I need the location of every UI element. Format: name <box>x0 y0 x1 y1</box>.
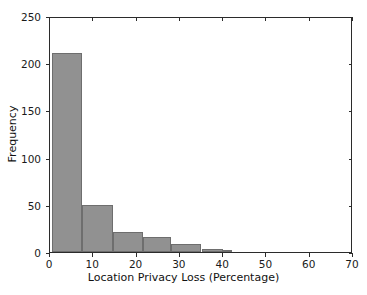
x-tick-label: 10 <box>72 258 112 270</box>
y-tick-mark <box>46 111 50 112</box>
y-tick-mark-right <box>349 64 353 65</box>
y-tick-label: 250 <box>1 11 41 23</box>
y-tick-label: 50 <box>1 200 41 212</box>
y-axis-label-text: Frequency <box>6 89 19 179</box>
y-tick-mark <box>46 159 50 160</box>
plot-area <box>49 17 352 253</box>
x-tick-mark-top <box>222 17 223 21</box>
x-tick-mark-top <box>179 17 180 21</box>
y-tick-mark <box>46 253 50 254</box>
histogram-bar <box>82 205 112 252</box>
y-tick-mark <box>46 206 50 207</box>
x-tick-mark-top <box>136 17 137 21</box>
x-tick-label: 30 <box>159 258 199 270</box>
y-tick-mark-right <box>349 253 353 254</box>
x-tick-label: 40 <box>202 258 242 270</box>
y-tick-mark-right <box>349 111 353 112</box>
y-tick-mark <box>46 64 50 65</box>
x-tick-mark <box>92 253 93 257</box>
x-tick-mark <box>136 253 137 257</box>
histogram-figure: 010203040506070050100150200250 Location … <box>0 0 367 295</box>
histogram-bar <box>52 53 82 252</box>
x-tick-mark <box>179 253 180 257</box>
x-tick-label: 70 <box>332 258 367 270</box>
x-tick-mark <box>265 253 266 257</box>
y-tick-label: 200 <box>1 58 41 70</box>
x-tick-mark <box>49 253 50 257</box>
histogram-bar <box>143 237 171 252</box>
x-tick-mark <box>309 253 310 257</box>
x-tick-label: 0 <box>29 258 69 270</box>
histogram-bar <box>171 244 201 252</box>
x-tick-mark-top <box>309 17 310 21</box>
x-tick-mark-top <box>49 17 50 21</box>
x-tick-mark-top <box>352 17 353 21</box>
y-tick-mark-right <box>349 206 353 207</box>
x-tick-label: 60 <box>289 258 329 270</box>
x-tick-label: 50 <box>245 258 285 270</box>
x-tick-mark <box>352 253 353 257</box>
histogram-bar <box>113 232 143 252</box>
x-tick-label: 20 <box>116 258 156 270</box>
histogram-bar <box>202 249 224 252</box>
x-tick-mark-top <box>92 17 93 21</box>
y-tick-mark-right <box>349 159 353 160</box>
y-tick-label: 0 <box>1 247 41 259</box>
y-tick-mark-right <box>349 17 353 18</box>
x-tick-mark <box>222 253 223 257</box>
y-tick-mark <box>46 17 50 18</box>
x-axis-label: Location Privacy Loss (Percentage) <box>0 271 367 284</box>
x-tick-mark-top <box>265 17 266 21</box>
histogram-bar <box>223 250 232 252</box>
